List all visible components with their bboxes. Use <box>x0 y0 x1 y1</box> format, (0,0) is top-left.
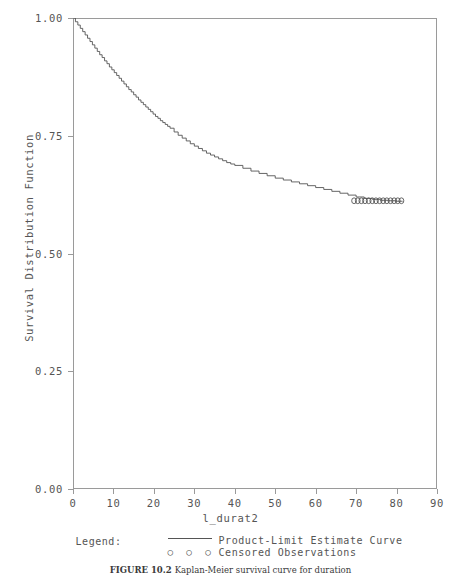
y-tick-mark <box>68 18 73 19</box>
x-tick-mark <box>73 489 74 494</box>
x-tick-mark <box>437 489 438 494</box>
x-tick-mark <box>356 489 357 494</box>
x-tick-label: 0 <box>53 498 93 509</box>
y-tick-label: 0.75 <box>11 131 63 142</box>
x-tick-mark <box>154 489 155 494</box>
y-tick-mark <box>68 254 73 255</box>
legend-censored-label: Censored Observations <box>219 547 357 558</box>
survival-curve <box>73 18 403 201</box>
x-tick-label: 80 <box>377 498 417 509</box>
x-tick-label: 60 <box>296 498 336 509</box>
survival-curve-path <box>73 18 403 201</box>
x-tick-label: 50 <box>255 498 295 509</box>
circle-marker-icon: ○ ○ ○ <box>168 547 212 557</box>
x-tick-label: 20 <box>134 498 174 509</box>
legend: Legend: Product-Limit Estimate Curve ○ ○… <box>0 534 461 560</box>
figure-caption: FIGURE 10.2 Kaplan-Meier survival curve … <box>0 565 461 575</box>
y-tick-label: 1.00 <box>11 13 63 24</box>
caption-label: FIGURE 10.2 <box>110 565 172 575</box>
x-tick-mark <box>113 489 114 494</box>
x-tick-mark <box>316 489 317 494</box>
x-tick-label: 70 <box>336 498 376 509</box>
x-axis-title: l_durat2 <box>0 512 461 524</box>
plot-canvas <box>73 18 437 489</box>
x-tick-label: 90 <box>417 498 457 509</box>
x-tick-mark <box>194 489 195 494</box>
y-tick-mark <box>68 371 73 372</box>
y-tick-mark <box>68 136 73 137</box>
y-tick-label: 0.50 <box>11 249 63 260</box>
y-tick-label: 0.25 <box>11 366 63 377</box>
y-tick-label: 0.00 <box>11 484 63 495</box>
legend-curve-label: Product-Limit Estimate Curve <box>219 535 403 546</box>
legend-title: Legend: <box>76 536 122 547</box>
x-tick-mark <box>235 489 236 494</box>
caption-text: Kaplan-Meier survival curve for duration <box>175 565 352 575</box>
line-swatch-icon <box>168 538 212 539</box>
x-tick-label: 40 <box>215 498 255 509</box>
x-tick-mark <box>397 489 398 494</box>
x-tick-label: 30 <box>174 498 214 509</box>
x-tick-label: 10 <box>93 498 133 509</box>
legend-item-curve: Product-Limit Estimate Curve <box>168 534 403 546</box>
legend-item-censored: ○ ○ ○Censored Observations <box>168 546 357 558</box>
x-tick-mark <box>275 489 276 494</box>
